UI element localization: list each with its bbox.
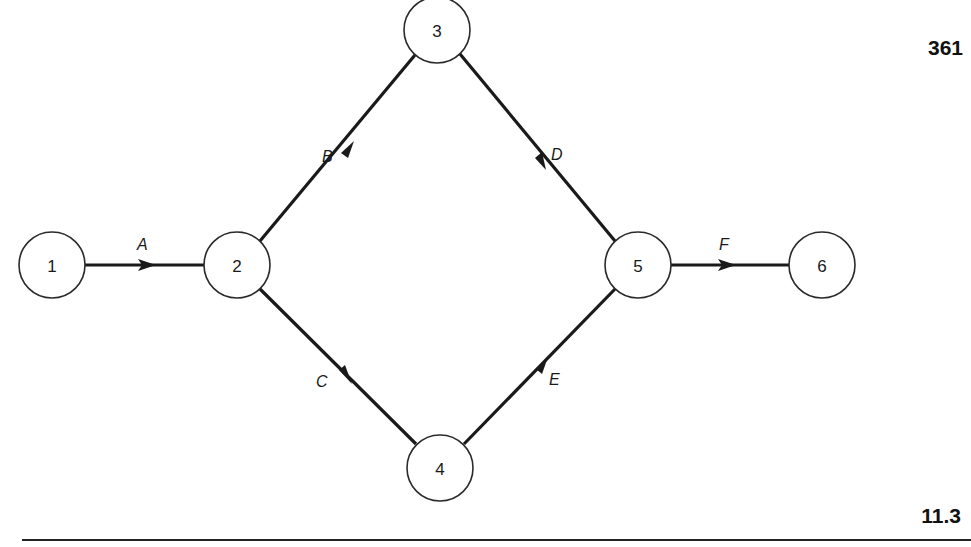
node-label: 4 — [435, 460, 444, 479]
node-label: 6 — [817, 257, 826, 276]
edge-f: F — [671, 236, 789, 271]
edge-label-e: E — [549, 371, 560, 388]
network-diagram: A B C D E F 1 2 3 — [0, 0, 971, 547]
node-4: 4 — [407, 435, 473, 501]
edge-label-a: A — [136, 236, 148, 253]
node-5: 5 — [605, 232, 671, 298]
node-label: 2 — [232, 257, 241, 276]
edge-label-d: D — [551, 146, 563, 163]
edge-label-f: F — [719, 236, 730, 253]
arrow-icon — [536, 357, 548, 374]
node-2: 2 — [204, 232, 270, 298]
node-label: 5 — [633, 257, 642, 276]
edge-b: B — [260, 55, 415, 241]
section-number: 11.3 — [921, 504, 961, 528]
node-label: 3 — [432, 22, 441, 41]
page-number: 361 — [928, 36, 963, 60]
edge-d: D — [460, 54, 615, 241]
edge-e: E — [464, 289, 615, 444]
node-label: 1 — [47, 257, 56, 276]
bottom-divider — [22, 539, 971, 541]
edge-label-b: B — [322, 148, 333, 165]
edge-c: C — [260, 289, 416, 444]
node-6: 6 — [789, 232, 855, 298]
node-3: 3 — [404, 0, 470, 63]
edge-label-c: C — [316, 373, 328, 390]
edge-a: A — [85, 236, 204, 271]
node-1: 1 — [19, 232, 85, 298]
